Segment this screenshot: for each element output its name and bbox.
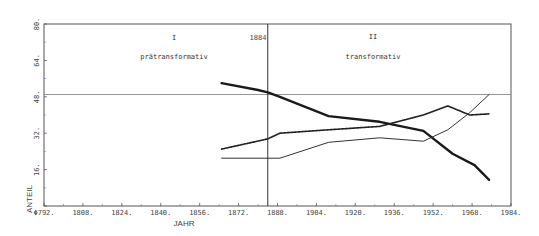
x-tick-label: 1872. bbox=[228, 209, 249, 217]
region-2-numeral: II bbox=[369, 33, 377, 41]
x-tick-label: 1968. bbox=[462, 209, 483, 217]
x-tick-label: 1904. bbox=[306, 209, 327, 217]
x-tick-label: 1840. bbox=[150, 209, 171, 217]
region-1-numeral: I bbox=[172, 34, 176, 42]
y-tick-label: 48. bbox=[33, 90, 41, 103]
y-tick-label: 32. bbox=[33, 127, 41, 140]
data-series bbox=[222, 83, 490, 180]
region-2-label: transformativ bbox=[346, 53, 401, 61]
x-tick-label: 1952. bbox=[423, 209, 444, 217]
x-tick-label: 1936. bbox=[384, 209, 405, 217]
y-tick-label: 80. bbox=[33, 18, 41, 31]
axis-ticks: Φ792.1808.1824.1840.1856.1872.1888.1904.… bbox=[33, 18, 522, 217]
x-axis-title: JAHR bbox=[174, 219, 195, 228]
region-1-label: prätransformativ bbox=[140, 53, 207, 61]
x-tick-label: 1984. bbox=[500, 209, 521, 217]
x-tick-label: 1824. bbox=[111, 209, 132, 217]
x-tick-label: 1808. bbox=[72, 209, 93, 217]
y-tick-label: 16. bbox=[33, 163, 41, 176]
reference-lines bbox=[44, 24, 511, 206]
plot-border bbox=[44, 24, 511, 206]
x-tick-label: 1856. bbox=[189, 209, 210, 217]
chart-labels: I prätransformativ II transformativ 1884… bbox=[25, 33, 400, 228]
series-line-3 bbox=[222, 95, 490, 159]
x-tick-label: Φ792. bbox=[33, 209, 54, 217]
vertical-line-label: 1884 bbox=[250, 34, 267, 42]
y-tick-label: 64. bbox=[33, 54, 41, 67]
series-line-1 bbox=[222, 83, 490, 180]
series-line-2 bbox=[222, 106, 490, 149]
line-chart: Φ792.1808.1824.1840.1856.1872.1888.1904.… bbox=[0, 0, 539, 236]
x-tick-label: 1888. bbox=[267, 209, 288, 217]
y-axis-title: ANTEIL bbox=[25, 184, 34, 213]
x-tick-label: 1920. bbox=[345, 209, 366, 217]
plot-frame bbox=[44, 24, 511, 206]
